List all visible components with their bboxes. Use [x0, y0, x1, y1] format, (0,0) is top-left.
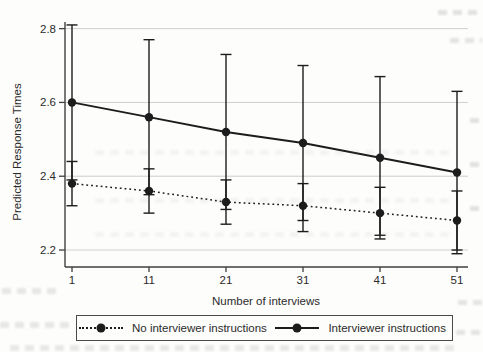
x-tick-label: 1	[69, 274, 75, 286]
gridlines	[65, 29, 468, 250]
data-point	[145, 113, 153, 121]
x-axis-title: Number of interviews	[212, 295, 320, 307]
y-tick-label: 2.2	[40, 244, 56, 256]
data-point	[68, 179, 76, 187]
data-point	[222, 198, 230, 206]
dotted-line-marker-icon	[79, 323, 123, 333]
data-point	[376, 154, 384, 162]
series-line-dotted	[72, 184, 457, 221]
data-point	[376, 209, 384, 217]
legend-label: No interviewer instructions	[132, 322, 267, 334]
x-tick-label: 41	[374, 274, 387, 286]
legend-item-instructions: Interviewer instructions	[275, 322, 446, 334]
data-point	[68, 98, 76, 106]
data-point	[453, 216, 461, 224]
data-point	[145, 187, 153, 195]
solid-line-marker-icon	[275, 323, 319, 333]
y-axis-title: Predicted Response Times	[11, 83, 23, 220]
error-bars	[67, 25, 463, 254]
x-tick-label: 11	[143, 274, 155, 286]
tick-labels: 2.22.42.62.811121314151	[40, 23, 463, 286]
x-tick-label: 21	[220, 274, 233, 286]
y-tick-label: 2.8	[40, 23, 56, 35]
data-point	[453, 168, 461, 176]
x-tick-label: 31	[297, 274, 310, 286]
legend-box: No interviewer instructions Interviewer …	[76, 315, 453, 341]
axes	[59, 22, 468, 272]
data-point	[299, 139, 307, 147]
legend-label: Interviewer instructions	[328, 322, 446, 334]
y-tick-label: 2.4	[40, 170, 57, 182]
data-point	[299, 202, 307, 210]
scanned-figure-page: 2.22.42.62.811121314151 Predicted Respon…	[0, 0, 483, 352]
data-point	[222, 128, 230, 136]
legend-item-no-instructions: No interviewer instructions	[79, 322, 267, 334]
series-line-solid	[72, 102, 457, 172]
series-lines	[72, 102, 457, 220]
x-tick-label: 51	[451, 274, 464, 286]
y-tick-label: 2.6	[40, 96, 56, 108]
